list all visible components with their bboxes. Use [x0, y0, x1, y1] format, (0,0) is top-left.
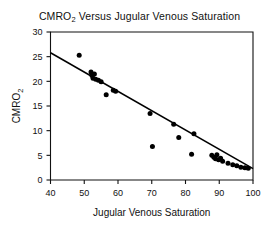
x-axis-title-text: Jugular Venous Saturation [93, 207, 210, 218]
y-tick-label-15: 15 [32, 101, 42, 111]
y-tick-label-20: 20 [32, 77, 42, 87]
y-tick-label-0: 0 [37, 175, 42, 185]
x-tick-labels: 405060708090100 [45, 188, 260, 198]
data-point [226, 161, 231, 166]
y-axis-title-text: CMRO2 [11, 89, 25, 124]
plot-area: 405060708090100 051015202530 Jugular Ven… [0, 0, 279, 234]
data-point [220, 159, 225, 164]
regression-line [51, 53, 254, 169]
y-axis-title-subscript: 2 [16, 89, 25, 93]
data-point [148, 111, 153, 116]
regression-line-segment [51, 53, 254, 169]
data-point [104, 92, 109, 97]
y-axis-title-main: CMRO [11, 93, 22, 124]
y-tick-label-10: 10 [32, 126, 42, 136]
x-tick-label-50: 50 [79, 188, 89, 198]
y-tick-label-5: 5 [37, 151, 42, 161]
data-point [246, 166, 251, 171]
x-tick-label-60: 60 [113, 188, 123, 198]
y-axis-title-group: CMRO2 [11, 89, 25, 124]
chart-figure: CMRO2 Versus Jugular Venous Saturation 4… [0, 0, 279, 234]
y-tick-label-25: 25 [32, 52, 42, 62]
x-tick-label-70: 70 [147, 188, 157, 198]
data-point [189, 152, 194, 157]
y-tick-labels: 051015202530 [32, 27, 42, 185]
data-point [113, 89, 118, 94]
data-point [92, 71, 97, 76]
data-point [150, 144, 155, 149]
x-axis-title: Jugular Venous Saturation [93, 207, 210, 218]
x-tick-label-90: 90 [214, 188, 224, 198]
y-tick-label-30: 30 [32, 27, 42, 37]
x-tick-label-100: 100 [245, 188, 260, 198]
y-axis-title: CMRO2 [11, 89, 25, 124]
data-point [214, 152, 219, 157]
x-tick-label-40: 40 [45, 188, 55, 198]
data-point [171, 122, 176, 127]
data-point [191, 131, 196, 136]
data-point [99, 79, 104, 84]
data-point [176, 135, 181, 140]
data-point [77, 53, 82, 58]
x-tick-label-80: 80 [180, 188, 190, 198]
